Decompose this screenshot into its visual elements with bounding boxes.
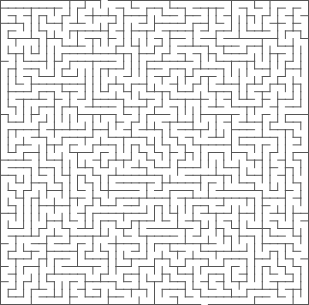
maze-walls — [1, 1, 309, 305]
maze — [0, 0, 309, 305]
maze-grid — [0, 0, 309, 305]
